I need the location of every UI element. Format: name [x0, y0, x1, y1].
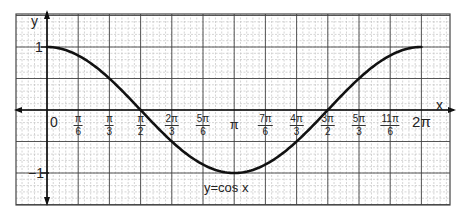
- x-tick-label: 7π6: [258, 114, 272, 137]
- x-tick-label: 11π6: [381, 114, 400, 137]
- y-tick-label: −1: [28, 166, 44, 180]
- x-tick-label: 2π: [412, 113, 431, 130]
- x-tick-label: 5π3: [352, 114, 366, 137]
- x-tick-label: 3π2: [321, 114, 335, 137]
- origin-label: 0: [50, 115, 58, 129]
- cosine-graph: π6π3π22π35π6π7π64π33π25π311π62π1−1 y x 0…: [0, 0, 464, 220]
- y-axis-label: y: [31, 14, 38, 28]
- x-tick-label: 5π6: [196, 114, 210, 137]
- x-tick-label: 2π3: [165, 114, 179, 137]
- x-tick-label: π3: [105, 114, 114, 137]
- y-tick-label: 1: [35, 40, 43, 54]
- x-tick-label: π: [230, 117, 239, 132]
- x-tick-label: 4π3: [289, 114, 303, 137]
- x-axis-label: x: [436, 98, 443, 112]
- x-tick-label: π6: [74, 114, 83, 137]
- curve-annotation: y=cos x: [204, 181, 248, 194]
- x-tick-label: π2: [136, 114, 145, 137]
